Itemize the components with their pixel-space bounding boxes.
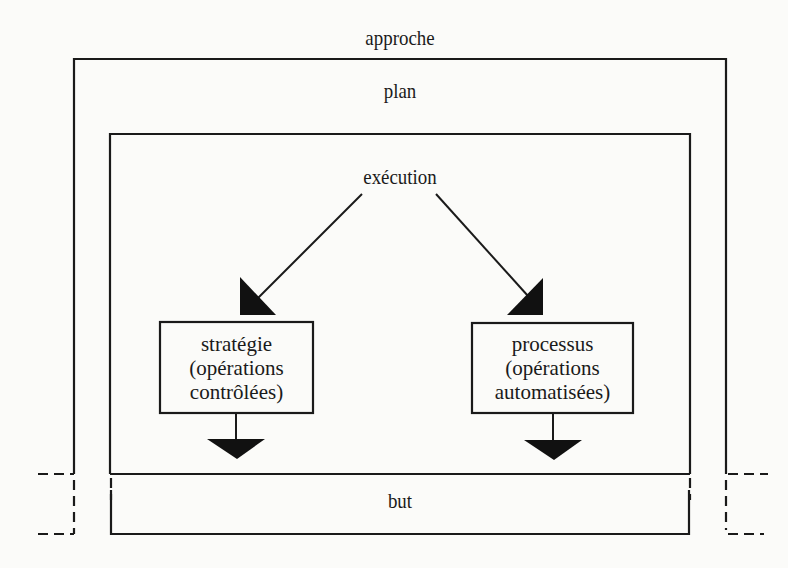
- execution-label: exécution: [328, 166, 472, 189]
- goal-label: but: [346, 490, 454, 513]
- arrow-exec-to-process-line: [436, 194, 528, 296]
- arrow-exec-to-process-head: [507, 278, 543, 315]
- strategy-box: stratégie (opérations contrôlées): [161, 323, 312, 412]
- process-line-3: automatisées): [495, 380, 610, 404]
- process-line-2: (opérations: [505, 356, 599, 380]
- process-box: processus (opérations automatisées): [473, 324, 632, 412]
- plan-label: plan: [328, 80, 472, 103]
- process-line-1: processus: [512, 332, 594, 356]
- diagram-canvas: approche plan exécution but stratégie (o…: [0, 0, 788, 568]
- strategy-line-1: stratégie: [201, 332, 272, 356]
- strategy-line-3: contrôlées): [190, 380, 283, 404]
- approach-label: approche: [328, 27, 472, 50]
- strategy-line-2: (opérations: [189, 356, 283, 380]
- arrow-process-to-goal-head: [524, 440, 582, 460]
- arrow-strategy-to-goal-head: [207, 439, 265, 459]
- arrow-exec-to-strategy-head: [240, 277, 276, 315]
- arrow-exec-to-strategy-line: [258, 194, 362, 298]
